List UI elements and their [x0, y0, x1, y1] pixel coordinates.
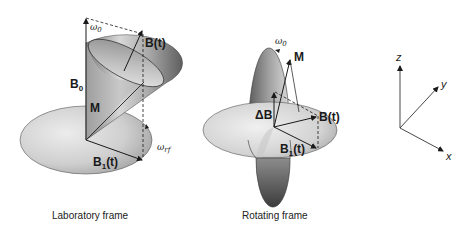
rot-frame-caption: Rotating frame — [242, 210, 308, 221]
nmr-frames-diagram: ω0 B(t) B0 M B1(t) ωrf Laboratory frame — [0, 0, 467, 231]
x-axis — [400, 128, 443, 151]
coordinate-axes: z y x — [395, 51, 452, 162]
lab-B1t-label: B — [93, 155, 102, 169]
svg-text:B0: B0 — [70, 77, 84, 93]
svg-text:B1(t): B1(t) — [93, 155, 118, 171]
rot-B1t-label: B — [280, 142, 289, 156]
y-axis — [400, 87, 438, 128]
svg-text:ω0: ω0 — [90, 22, 102, 34]
laboratory-frame: ω0 B(t) B0 M B1(t) ωrf Laboratory frame — [20, 18, 183, 221]
rot-vertical-plane-bottom — [256, 158, 290, 207]
rot-Bt-label: B(t) — [319, 110, 340, 124]
svg-text:ωrf: ωrf — [157, 142, 172, 154]
rot-M-label: M — [294, 50, 304, 64]
lab-frame-caption: Laboratory frame — [52, 210, 129, 221]
rotating-frame: ω0 M ΔB B(t) B1(t) Rotating frame — [203, 36, 340, 221]
z-axis-label: z — [395, 51, 402, 63]
svg-text:B1(t): B1(t) — [280, 142, 305, 158]
rot-deltaB-label: ΔB — [255, 108, 273, 122]
lab-M-label: M — [90, 101, 100, 115]
lab-Bt-label: B(t) — [145, 36, 166, 50]
svg-text:ω0: ω0 — [275, 36, 287, 48]
y-axis-label: y — [440, 78, 448, 90]
x-axis-label: x — [445, 150, 452, 162]
lab-B0-label: B — [70, 77, 79, 91]
